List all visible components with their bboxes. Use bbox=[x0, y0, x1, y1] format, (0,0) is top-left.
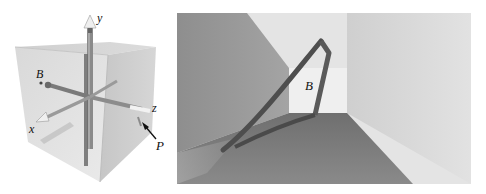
label-b: B bbox=[36, 67, 44, 81]
cube-diagram: y B z x P bbox=[0, 0, 175, 194]
point-b bbox=[39, 81, 42, 84]
cube-front-face bbox=[15, 47, 108, 182]
label-z: z bbox=[151, 101, 157, 115]
room-diagram: B bbox=[177, 13, 471, 184]
label-y: y bbox=[96, 11, 103, 25]
cube-axes-illustration: y B z x P bbox=[0, 0, 175, 194]
label-p: P bbox=[155, 138, 164, 153]
room-interior-view: B bbox=[177, 13, 471, 184]
y-axis-arrowhead bbox=[84, 15, 96, 28]
cube-side-face bbox=[100, 47, 156, 182]
label-object-b: B bbox=[305, 78, 313, 93]
label-x: x bbox=[28, 122, 35, 136]
